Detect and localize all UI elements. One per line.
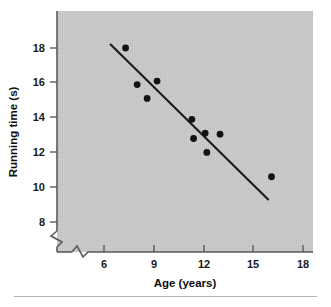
- x-axis: 6 9 12 15 18 Age (years): [57, 245, 313, 289]
- data-point: [134, 81, 141, 88]
- y-axis: 18 16 14 12 10 8 Running time (s): [7, 11, 62, 252]
- x-tick-label-12: 12: [198, 258, 210, 270]
- x-tick-label-18: 18: [297, 258, 309, 270]
- y-axis-break-icon: [51, 231, 62, 252]
- data-point: [217, 131, 224, 138]
- y-tick-label-10: 10: [33, 181, 45, 193]
- y-tick-label-16: 16: [33, 76, 45, 88]
- scatter-plot-figure: 18 16 14 12 10 8 Running time (s) 6 9 12…: [0, 0, 331, 307]
- data-point: [202, 130, 209, 137]
- x-tick-label-9: 9: [151, 258, 157, 270]
- y-tick-label-12: 12: [33, 146, 45, 158]
- chart-canvas: 18 16 14 12 10 8 Running time (s) 6 9 12…: [0, 0, 331, 307]
- data-point: [122, 45, 129, 52]
- regression-line: [111, 45, 269, 200]
- x-tick-label-15: 15: [247, 258, 259, 270]
- y-tick-label-14: 14: [33, 111, 46, 123]
- data-point: [203, 149, 210, 156]
- data-point: [154, 78, 161, 85]
- x-axis-title: Age (years): [154, 277, 217, 289]
- y-axis-title: Running time (s): [7, 86, 19, 177]
- x-axis-break-icon: [72, 246, 313, 257]
- y-tick-label-8: 8: [39, 216, 45, 228]
- figure-footer-rule: [14, 296, 317, 297]
- x-tick-label-6: 6: [101, 258, 107, 270]
- data-points-group: [122, 45, 275, 181]
- data-point: [144, 95, 151, 102]
- data-point: [190, 135, 197, 142]
- data-point: [188, 116, 195, 123]
- data-point: [268, 173, 275, 180]
- regression-line-group: [111, 45, 269, 200]
- y-tick-label-18: 18: [33, 42, 45, 54]
